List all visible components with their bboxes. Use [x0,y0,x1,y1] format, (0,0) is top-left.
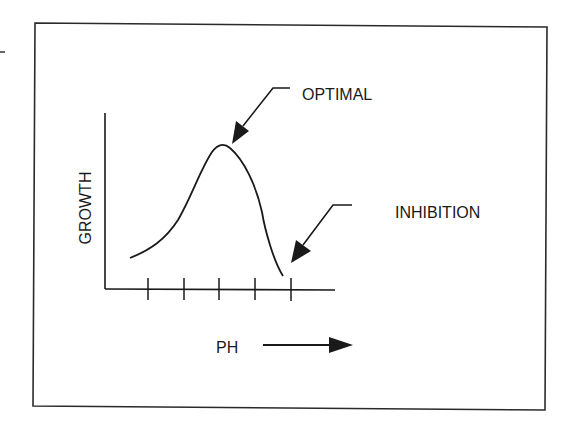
y-axis-label: GROWTH [77,172,94,245]
optimal-arrow-icon [232,88,290,144]
optimal-label: OPTIMAL [302,86,372,103]
growth-vs-ph-diagram: OPTIMAL INHIBITION GROWTH PH [0,0,575,433]
x-axis-label: PH [216,339,238,356]
right-arrow-icon [263,337,353,353]
inhibition-arrow-icon [291,205,352,263]
inhibition-label: INHIBITION [395,204,480,221]
growth-curve [130,145,283,276]
x-axis [105,289,335,290]
